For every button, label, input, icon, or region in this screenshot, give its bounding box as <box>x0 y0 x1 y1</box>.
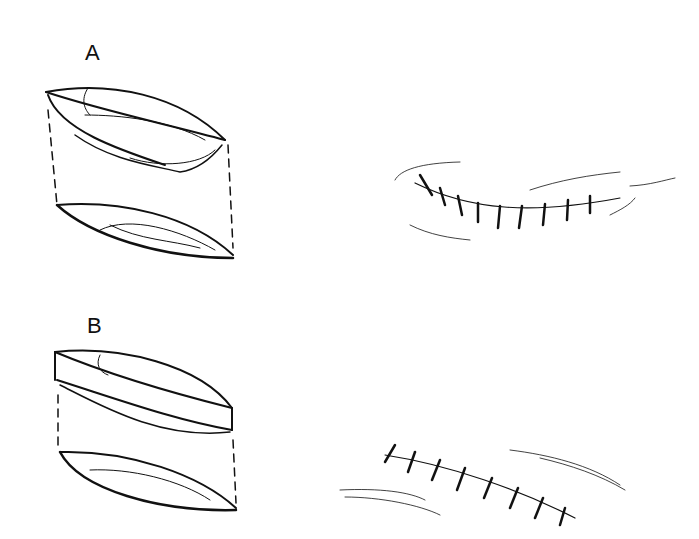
panel-a-excised-segment <box>46 88 233 258</box>
figure-canvas <box>0 0 699 539</box>
panel-b-suture-line <box>340 445 625 525</box>
panel-b-excised-segment <box>55 351 236 510</box>
panel-a-suture-line <box>395 162 675 240</box>
